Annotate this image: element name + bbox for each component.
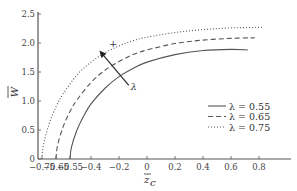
chart: −0.75−0.65−0.55−0.4−0.200.20.40.60.800.5… [0,0,297,191]
series-line-dotted [42,27,262,159]
series-line-solid [70,49,248,159]
legend-label: λ = 0.75 [229,122,270,133]
x-tick-label: 0 [144,162,149,172]
x-tick-label: −0.55 [57,162,83,172]
series-group [42,27,262,159]
y-tick-label: 2.0 [21,38,35,48]
y-tick-label: 1.5 [21,67,35,77]
axes: −0.75−0.65−0.55−0.4−0.200.20.40.60.800.5… [21,9,291,172]
x-tick-label: −0.2 [109,162,130,172]
x-tick-label: 0.2 [168,162,182,172]
plus-marker: + [109,38,117,49]
legend: λ = 0.55λ = 0.65λ = 0.75 [208,101,270,133]
x-axis-label-sub: c [150,177,156,188]
y-tick-label: 0 [30,154,35,164]
x-tick-label: 0.6 [224,162,238,172]
x-tick-label: 0.4 [196,162,210,172]
y-tick-label: 1.0 [21,96,35,106]
annotation-group: + λ [99,38,136,92]
y-axis-label-text: W [9,86,20,97]
legend-label: λ = 0.55 [229,101,270,112]
y-axis-label: W [8,86,20,98]
x-tick-label: −0.4 [81,162,102,172]
y-tick-label: 0.5 [21,125,35,135]
x-axis-label-main: z [143,174,150,185]
lambda-arrow [104,56,129,85]
x-axis-label: z c [143,174,156,188]
legend-label: λ = 0.65 [229,111,270,122]
series-line-dashed [56,38,255,159]
x-tick-label: 0.8 [252,162,266,172]
y-tick-label: 2.5 [21,9,35,19]
lambda-arrow-label: λ [130,81,137,92]
